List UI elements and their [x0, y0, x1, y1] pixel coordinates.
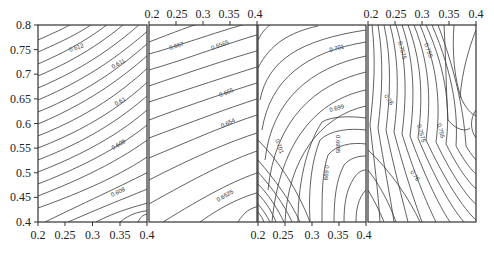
contour-label: 0.6985 — [335, 135, 341, 154]
x-tick-label: 0.35 — [439, 7, 460, 21]
contour-label: 0.701 — [329, 43, 346, 53]
y-tick-label: 0.8 — [16, 18, 31, 32]
contour-label: 0.76 — [383, 93, 395, 107]
y-tick-label: 0.65 — [10, 92, 31, 106]
contour-label: 0.61 — [114, 95, 128, 106]
x-tick-label: 0.4 — [357, 228, 372, 242]
panel-1-contours — [38, 10, 160, 222]
x-tick-label: 0.3 — [415, 7, 430, 21]
x-tick-label: 0.25 — [386, 7, 407, 21]
panel-2-contours — [149, 20, 260, 222]
x-tick-label: 0.2 — [251, 228, 266, 242]
x-tick-label: 0.25 — [55, 228, 76, 242]
panel-4-contours — [368, 25, 478, 222]
panel-1-x-axis: 0.2 0.25 0.3 0.35 0.4 — [31, 222, 155, 242]
contour-label: 0.654 — [220, 117, 237, 129]
contour-label: 0.7575 — [416, 124, 427, 144]
x-tick-label: 0.4 — [469, 7, 484, 21]
x-tick-label: 0.35 — [110, 228, 131, 242]
contour-label: 0.612 — [68, 42, 85, 53]
x-tick-label: 0.4 — [140, 228, 155, 242]
contour-label: 0.608 — [110, 186, 127, 198]
x-tick-label: 0.3 — [85, 228, 100, 242]
y-tick-label: 0.55 — [10, 141, 31, 155]
y-tick-label: 0.45 — [10, 190, 31, 204]
contour-label: 0.7575 — [397, 41, 408, 61]
x-tick-label: 0.35 — [328, 228, 349, 242]
contour-label: 0.699 — [323, 165, 330, 181]
x-tick-label: 0.2 — [364, 7, 379, 21]
x-tick-label: 0.25 — [273, 228, 294, 242]
contour-label: 0.657 — [168, 40, 185, 51]
x-tick-label: 0.3 — [305, 228, 320, 242]
y-tick-label: 0.6 — [16, 117, 31, 131]
panel-2-x-axis: 0.2 0.25 0.3 0.35 0.4 — [145, 7, 263, 25]
panel-2: 0.657 0.6565 0.655 0.654 0.6525 0.2 0.25… — [145, 7, 263, 222]
y-tick-label: 0.5 — [16, 166, 31, 180]
x-tick-label: 0.2 — [145, 7, 160, 21]
x-tick-label: 0.4 — [248, 7, 263, 21]
contour-figure: 0.8 0.75 0.7 0.65 0.6 0.55 0.5 0.45 0.4 — [0, 0, 494, 255]
x-tick-label: 0.35 — [219, 7, 240, 21]
contour-label: 0.655 — [218, 86, 235, 97]
panel-3-x-axis: 0.2 0.25 0.3 0.35 0.4 — [251, 222, 372, 242]
panel-4: 0.7575 0.755 0.76 0.7575 0.755 0.76 0.2 … — [364, 7, 484, 222]
x-tick-label: 0.25 — [167, 7, 188, 21]
x-tick-label: 0.2 — [31, 228, 46, 242]
contour-label: 0.6565 — [210, 39, 230, 51]
panel-4-x-axis: 0.2 0.25 0.3 0.35 0.4 — [364, 7, 484, 25]
panel-1: 0.612 0.611 0.61 0.609 0.608 0.2 0.25 0.… — [31, 10, 161, 242]
contour-label: 0.755 — [423, 42, 434, 59]
y-axis: 0.8 0.75 0.7 0.65 0.6 0.55 0.5 0.45 0.4 — [10, 18, 38, 229]
y-tick-label: 0.7 — [16, 67, 31, 81]
x-tick-label: 0.3 — [196, 7, 211, 21]
panel-3: 0.701 0.699 0.701 0.6985 0.699 0.2 0.25 … — [251, 25, 372, 242]
panel-3-contours — [258, 25, 366, 222]
contour-label: 0.76 — [409, 169, 421, 183]
y-tick-label: 0.75 — [10, 43, 31, 57]
contour-label: 0.699 — [329, 103, 346, 113]
contour-label: 0.609 — [111, 138, 128, 151]
y-tick-label: 0.4 — [16, 215, 31, 229]
